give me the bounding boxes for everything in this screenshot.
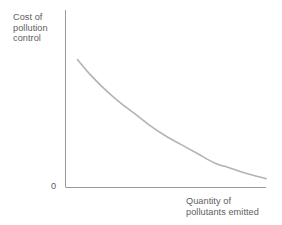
y-axis-label: Cost of pollution control xyxy=(13,12,48,44)
cost-of-pollution-control-curve xyxy=(78,60,266,179)
origin-tick-label: 0 xyxy=(51,181,56,192)
x-axis-label: Quantity of pollutants emitted xyxy=(186,196,259,217)
pollution-cost-chart: Cost of pollution control Quantity of po… xyxy=(0,0,282,225)
